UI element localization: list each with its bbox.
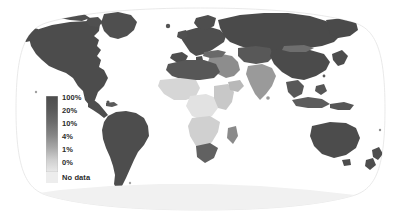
legend-label-4: 4% (62, 133, 73, 141)
legend-label-0: 0% (62, 159, 73, 167)
island-falklands (129, 182, 131, 184)
legend-label-1: 1% (62, 146, 73, 154)
map-legend: 100% 20% 10% 4% 1% 0% No data (46, 94, 116, 190)
region-central-asia (238, 46, 274, 64)
island-taiwan (323, 75, 326, 78)
island-fiji (379, 129, 381, 131)
legend-label-10: 10% (62, 120, 77, 128)
legend-nodata-swatch (46, 172, 58, 183)
legend-label-100: 100% (62, 94, 82, 102)
world-map-figure: 100% 20% 10% 4% 1% 0% No data (0, 0, 401, 218)
island-sri-lanka (266, 96, 270, 100)
legend-label-20: 20% (62, 107, 77, 115)
legend-label-group: 100% 20% 10% 4% 1% 0% No data (62, 94, 116, 190)
legend-gradient-bar (46, 96, 58, 172)
legend-label-no-data: No data (62, 174, 90, 182)
island-hawaii (35, 91, 37, 93)
island-iceland (166, 24, 170, 28)
